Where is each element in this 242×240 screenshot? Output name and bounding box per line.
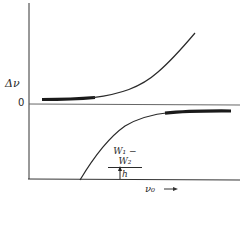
gap-annotation-fraction: W₁ − W₂ h	[108, 146, 142, 179]
x-axis-label-text: ν₀	[145, 183, 155, 194]
x-direction-arrow-head-icon	[173, 187, 178, 191]
zero-line	[29, 104, 240, 105]
x-axis	[28, 179, 240, 180]
fraction-denominator: h	[108, 168, 142, 179]
x-axis-label: ν₀	[145, 184, 155, 194]
lower-branch-thick	[165, 111, 231, 113]
fraction-numerator: W₁ − W₂	[108, 146, 142, 168]
zero-tick-label: 0	[18, 98, 24, 108]
y-axis-label: Δν	[5, 78, 20, 89]
upper-branch-curve	[93, 33, 195, 98]
upper-branch-thick	[42, 98, 95, 100]
